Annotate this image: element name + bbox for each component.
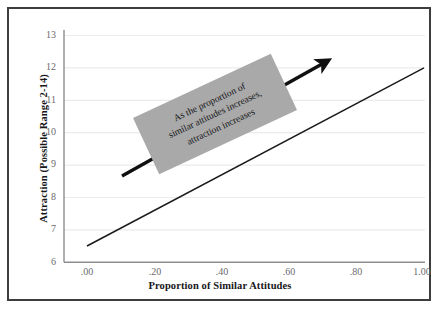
- x-tick-label-0: .00: [67, 266, 107, 277]
- x-axis-title: Proportion of Similar Attitudes: [0, 280, 440, 291]
- x-tick-label-80: .80: [336, 266, 376, 277]
- x-tick-label-20: .20: [135, 266, 175, 277]
- figure-container: As the proportion of similar attitudes i…: [0, 0, 440, 320]
- x-tick-label-40: .40: [202, 266, 242, 277]
- y-axis-title: Attraction (Possible Range 2-14): [38, 19, 49, 279]
- x-tick-label-100: 1.00: [402, 266, 440, 277]
- x-tick-label-60: .60: [269, 266, 309, 277]
